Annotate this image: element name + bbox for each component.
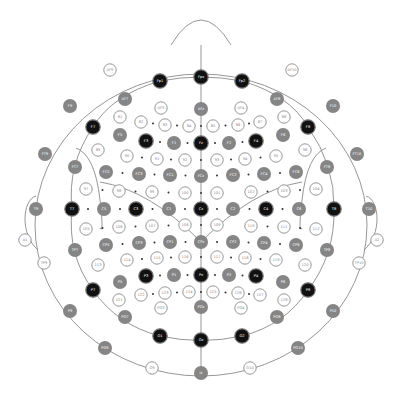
electrode-label: 124	[186, 290, 194, 294]
electrode-po9: PO9	[98, 341, 112, 355]
electrode-108: 108	[179, 219, 191, 231]
electrode-ft10: FT10	[350, 147, 364, 161]
electrode-106: 106	[113, 221, 125, 233]
reference-dot	[122, 172, 124, 174]
electrode-fpz: Fpz	[194, 70, 208, 84]
electrode-label: 95	[274, 154, 279, 158]
electrode-tp7: TP7	[68, 243, 82, 257]
electrode-poz: POz	[194, 300, 208, 314]
electrode-label: PO4	[237, 306, 245, 310]
electrode-tp9: TP9	[38, 257, 50, 269]
electrode-oz: Oz	[194, 333, 208, 347]
electrode-po7: PO7	[118, 310, 132, 324]
electrode-label: FC1	[167, 173, 174, 177]
reference-dot	[168, 225, 170, 227]
reference-dot	[200, 224, 202, 226]
electrode-label: 83	[163, 123, 168, 127]
reference-dot	[248, 174, 250, 176]
electrode-label: 109	[214, 223, 222, 227]
electrode-ft7: FT7	[68, 160, 82, 174]
electrode-label: F6	[281, 133, 286, 137]
reference-dot	[102, 189, 104, 191]
electrode-cp3: CP3	[132, 236, 146, 250]
electrode-label: TP8	[323, 248, 331, 252]
electrode-label: PO8	[273, 315, 281, 319]
electrode-p9: P9	[63, 304, 77, 318]
electrode-88: 88	[278, 111, 290, 123]
electrode-f9: F9	[63, 99, 77, 113]
electrode-label: O1	[157, 334, 162, 338]
electrode-label: 127	[257, 293, 264, 297]
electrode-p4: P4	[249, 269, 263, 283]
electrode-label: 103	[281, 189, 288, 193]
reference-dot	[242, 141, 244, 143]
electrode-101: 101	[211, 187, 223, 199]
electrode-label: Fp2	[239, 79, 246, 83]
electrode-label: 91	[155, 157, 160, 161]
electrode-label: CP5	[103, 243, 110, 247]
reference-dot	[152, 293, 154, 295]
electrode-p5: P5	[113, 275, 127, 289]
electrode-af8: AF8	[270, 92, 284, 106]
electrode-85: 85	[207, 120, 219, 132]
electrode-84: 84	[183, 120, 195, 132]
electrode-label: 97	[84, 187, 89, 191]
reference-dot	[200, 291, 202, 293]
electrode-label: F9	[68, 104, 73, 108]
electrode-label: AF7	[122, 97, 129, 101]
electrode-label: C3	[134, 207, 139, 211]
reference-dot	[87, 208, 89, 210]
electrode-f1: F1	[167, 136, 181, 150]
reference-dot	[184, 208, 186, 210]
electrode-label: F3	[144, 139, 148, 143]
electrode-label: P2	[227, 273, 231, 277]
electrode-label: TP9	[40, 261, 48, 265]
reference-dot	[248, 123, 250, 125]
electrode-label: 106	[116, 225, 124, 229]
electrode-cp1: CP1	[163, 235, 177, 249]
electrode-o10: O10	[244, 362, 256, 374]
electrode-label: PO10	[293, 346, 303, 350]
reference-dot	[170, 257, 172, 259]
reference-dot	[279, 243, 281, 245]
electrode-p3: P3	[139, 269, 153, 283]
electrode-t8: T8	[327, 202, 341, 216]
eeg-electrode-diagram: FpzFp1Fp2AF9AF10AF7AF8AF3AF4AFzF9F108182…	[0, 0, 402, 393]
electrode-113: 113	[92, 259, 104, 271]
electrode-tp10: TP10	[353, 257, 365, 269]
electrode-t7: T7	[65, 202, 79, 216]
electrode-label: P7	[91, 288, 95, 292]
reference-dot	[152, 208, 154, 210]
reference-dot	[225, 292, 227, 294]
electrode-iz: Iz	[194, 366, 208, 380]
electrode-cp5: CP5	[99, 238, 113, 252]
reference-dot	[135, 226, 137, 228]
electrode-label: PO9	[101, 346, 109, 350]
electrode-label: P4	[254, 274, 259, 278]
electrode-ft9: FT9	[38, 147, 52, 161]
electrode-label: 96	[303, 148, 308, 152]
electrode-label: CP1	[167, 240, 174, 244]
electrode-label: FC2	[230, 173, 237, 177]
electrode-label: 123	[162, 291, 169, 295]
electrode-117: 117	[211, 251, 223, 263]
electrode-c6: C6	[292, 202, 306, 216]
reference-dot	[176, 292, 178, 294]
electrode-label: AFz	[198, 107, 205, 111]
electrode-label: 115	[154, 256, 161, 260]
electrode-label: P8	[306, 288, 311, 292]
electrode-t9: T9	[29, 202, 43, 216]
electrode-104: 104	[310, 183, 322, 195]
reference-dot	[299, 189, 301, 191]
reference-dot	[214, 274, 216, 276]
electrode-label: 89	[96, 148, 101, 152]
electrode-90: 90	[121, 150, 133, 162]
reference-dot	[260, 157, 262, 159]
electrode-cp4: CP4	[257, 236, 271, 250]
electrode-label: O10	[246, 366, 254, 370]
electrode-c5: C5	[97, 202, 111, 216]
reference-dot	[282, 208, 284, 210]
reference-dot	[176, 125, 178, 127]
electrode-af4: AF4	[235, 102, 247, 114]
electrode-c4: C4	[259, 202, 273, 216]
